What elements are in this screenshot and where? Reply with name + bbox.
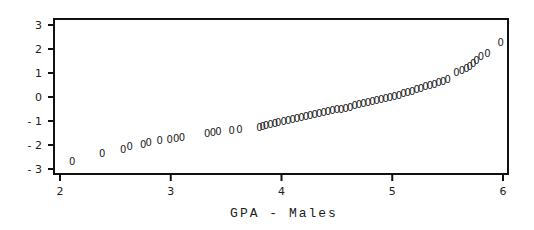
data-point-marker: 0 xyxy=(69,156,75,167)
data-points: 0000000000000000000000000000000000000000… xyxy=(69,37,504,167)
y-tick-label: 3 xyxy=(35,19,42,32)
x-tick-label: 2 xyxy=(57,185,64,198)
data-point-marker: 0 xyxy=(478,51,484,62)
data-point-marker: 0 xyxy=(99,148,105,159)
x-axis: 23456 xyxy=(57,174,507,198)
y-tick-label: 2 xyxy=(35,43,42,56)
data-point-marker: 0 xyxy=(498,37,504,48)
y-axis: 3210- 1- 2- 3 xyxy=(28,19,54,176)
y-tick-label: - 1 xyxy=(28,115,42,128)
y-tick-label: 0 xyxy=(35,91,42,104)
data-point-marker: 0 xyxy=(228,125,234,136)
x-axis-title: GPA - Males xyxy=(230,206,338,221)
data-point-marker: 0 xyxy=(236,124,242,135)
y-tick-label: 1 xyxy=(35,67,42,80)
qq-plot: 3210- 1- 2- 3 23456 00000000000000000000… xyxy=(0,0,534,230)
data-point-marker: 0 xyxy=(215,126,221,137)
data-point-marker: 0 xyxy=(166,134,172,145)
y-tick-label: - 3 xyxy=(28,163,42,176)
data-point-marker: 0 xyxy=(145,137,151,148)
y-tick-label: - 2 xyxy=(28,139,42,152)
x-tick-label: 6 xyxy=(500,185,507,198)
data-point-marker: 0 xyxy=(156,135,162,146)
x-tick-label: 4 xyxy=(278,185,285,198)
data-point-marker: 0 xyxy=(444,74,450,85)
data-point-marker: 0 xyxy=(484,48,490,59)
x-tick-label: 3 xyxy=(167,185,174,198)
data-point-marker: 0 xyxy=(120,144,126,155)
data-point-marker: 0 xyxy=(179,132,185,143)
x-tick-label: 5 xyxy=(389,185,396,198)
data-point-marker: 0 xyxy=(127,141,133,152)
